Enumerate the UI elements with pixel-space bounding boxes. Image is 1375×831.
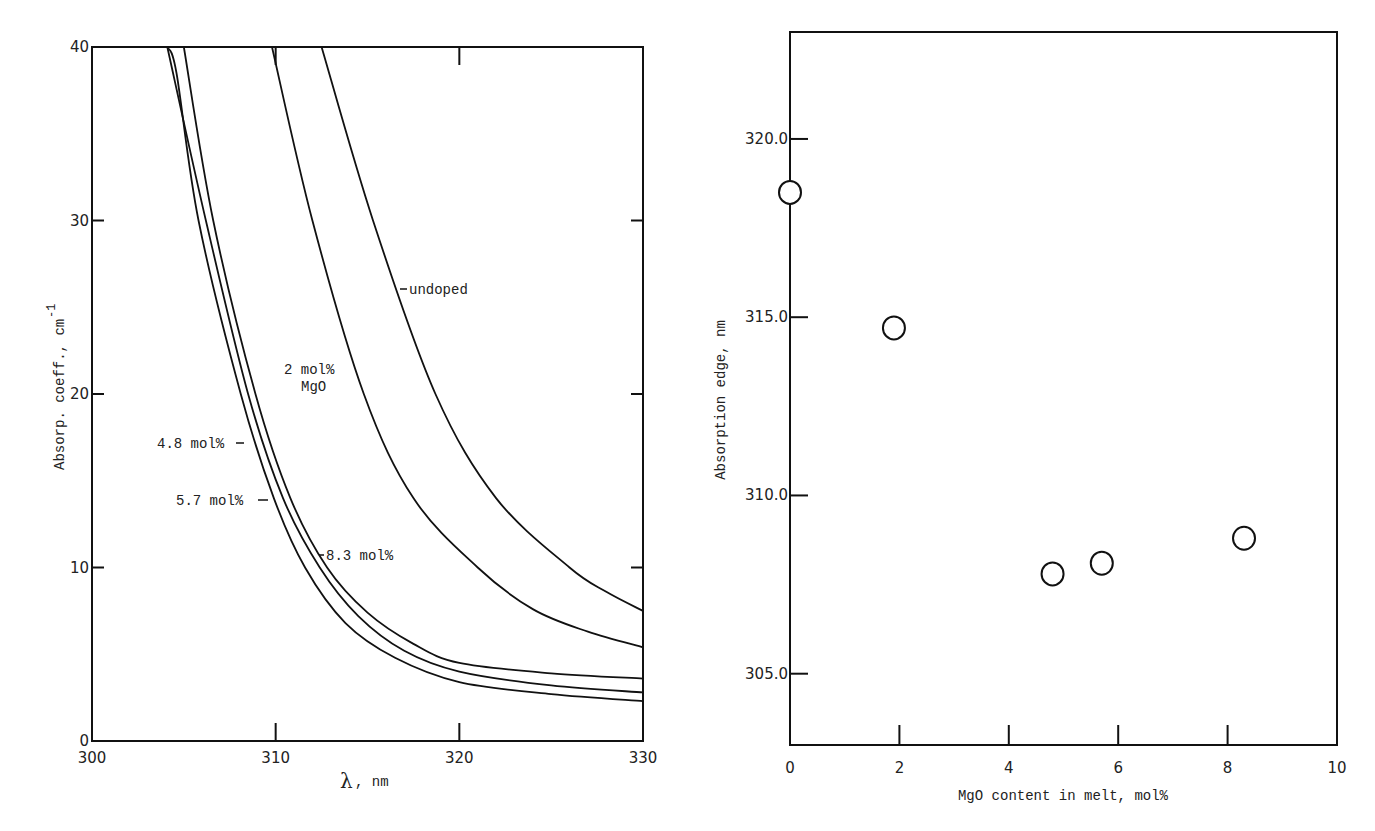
x-tick-label: 6	[1113, 759, 1123, 777]
curve-undoped	[322, 47, 643, 611]
figure-canvas: 300310320330010203040 undoped 2 mol% MgO…	[0, 0, 1375, 831]
x-tick-label: 10	[1327, 759, 1346, 777]
y-tick-label: 0	[79, 732, 89, 750]
data-point-marker	[779, 181, 801, 204]
right-x-axis-title: MgO content in melt, mol%	[958, 788, 1169, 804]
curve-5-7-mol-	[167, 47, 643, 692]
absorption-spectra-chart: 300310320330010203040 undoped 2 mol% MgO…	[45, 38, 657, 793]
x-tick-label: 4	[1004, 759, 1014, 777]
label-2mol-line1: 2 mol%	[284, 362, 335, 378]
right-axis-ticks: 0246810305.0310.0315.0320.0	[745, 130, 1347, 777]
x-tick-label: 0	[785, 759, 795, 777]
label-4-8mol: 4.8 mol%	[157, 436, 225, 452]
svg-text:-1: -1	[45, 304, 59, 318]
curve-8-3-mol-	[184, 47, 643, 679]
right-plot-frame	[790, 32, 1337, 745]
x-tick-label: 320	[445, 749, 474, 767]
left-plot-frame	[92, 47, 643, 741]
left-x-axis-title: λ , nm	[340, 769, 389, 793]
data-point-marker	[883, 316, 905, 339]
label-undoped: undoped	[409, 282, 468, 298]
svg-text:, nm: , nm	[355, 774, 389, 790]
x-tick-label: 8	[1223, 759, 1233, 777]
curve-4-8-mol-	[167, 47, 643, 701]
y-tick-label: 320.0	[745, 130, 788, 148]
data-point-marker	[1091, 552, 1113, 575]
y-tick-label: 10	[70, 559, 89, 577]
svg-text:λ: λ	[340, 769, 353, 793]
y-tick-label: 30	[70, 212, 89, 230]
data-point-marker	[1042, 562, 1064, 585]
x-tick-label: 2	[895, 759, 905, 777]
svg-text:Absorp. coeff., cm: Absorp. coeff., cm	[52, 319, 68, 470]
label-8-3mol: 8.3 mol%	[326, 548, 394, 564]
right-y-axis-title: Absorption edge, nm	[713, 320, 729, 480]
absorption-curves	[167, 47, 643, 701]
y-tick-label: 310.0	[745, 486, 788, 504]
y-tick-label: 305.0	[745, 665, 788, 683]
y-tick-label: 315.0	[745, 308, 788, 326]
left-y-axis-title: Absorp. coeff., cm -1	[45, 304, 68, 470]
svg-text:Absorption edge, nm: Absorption edge, nm	[713, 320, 729, 480]
data-point-marker	[1233, 527, 1255, 550]
x-tick-label: 310	[261, 749, 290, 767]
y-tick-label: 20	[70, 385, 89, 403]
left-axis-ticks: 300310320330010203040	[70, 38, 657, 767]
x-tick-label: 300	[78, 749, 107, 767]
label-5-7mol: 5.7 mol%	[176, 493, 244, 509]
absorption-edge-chart: 0246810305.0310.0315.0320.0 MgO content …	[713, 32, 1347, 804]
label-2mol-line2: MgO	[301, 379, 326, 395]
x-tick-label: 330	[629, 749, 658, 767]
data-points	[779, 181, 1255, 585]
y-tick-label: 40	[70, 38, 89, 56]
